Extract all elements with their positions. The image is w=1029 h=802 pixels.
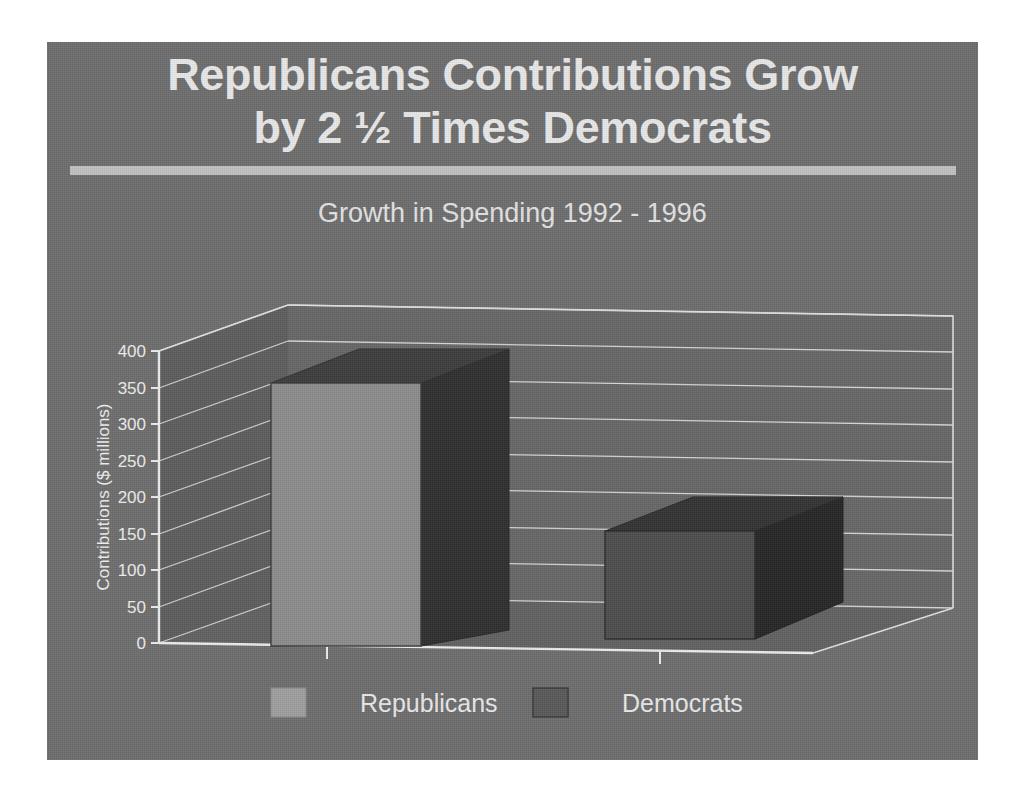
y-axis-tick-labels: 0 50 100 150 200 250 300 350 400 (118, 342, 146, 653)
chart-legend: Republicans Democrats (271, 688, 743, 717)
y-axis (151, 351, 159, 643)
legend-swatch-democrats[interactable] (533, 688, 568, 717)
legend-swatch-republicans[interactable] (271, 688, 306, 717)
bar-republicans-front (271, 383, 421, 646)
y-tick-label: 350 (118, 379, 146, 398)
y-tick-label: 50 (127, 598, 146, 617)
y-tick-label: 300 (118, 415, 146, 434)
y-axis-title: Contributions ($ millions) (94, 403, 113, 590)
legend-label-democrats: Democrats (622, 689, 743, 717)
bar-chart-3d: 0 50 100 150 200 250 300 350 400 Contrib… (47, 42, 978, 760)
y-tick-label: 250 (118, 452, 146, 471)
presentation-slide: Republicans Contributions Grow by 2 ½ Ti… (47, 42, 978, 760)
legend-label-republicans: Republicans (360, 689, 498, 717)
y-tick-label: 0 (137, 634, 146, 653)
y-tick-label: 200 (118, 488, 146, 507)
bar-democrats-front (605, 531, 755, 639)
y-tick-label: 400 (118, 342, 146, 361)
bar-republicans-side (421, 349, 509, 646)
bar-republicans[interactable] (271, 349, 509, 646)
chart-canvas: 0 50 100 150 200 250 300 350 400 Contrib… (47, 42, 978, 760)
y-tick-label: 150 (118, 525, 146, 544)
y-tick-label: 100 (118, 561, 146, 580)
